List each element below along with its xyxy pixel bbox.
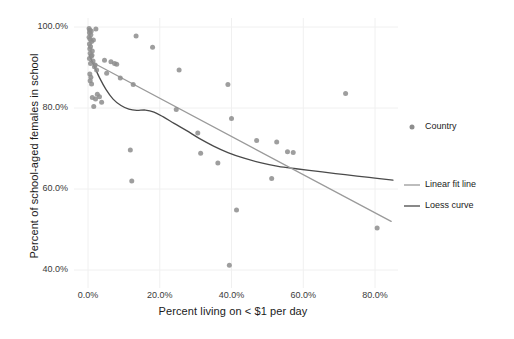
x-tick-label: 40.0% <box>209 290 255 300</box>
y-tick-label: 80.0% <box>22 102 68 112</box>
plot-area <box>0 0 514 339</box>
x-axis-title: Percent living on < $1 per day <box>88 305 378 317</box>
legend-item-label: Linear fit line <box>425 179 476 189</box>
legend-marks <box>404 125 420 207</box>
x-tick-label: 0.0% <box>65 290 111 300</box>
y-tick-label: 100.0% <box>22 21 68 31</box>
loess-curve <box>89 55 393 180</box>
y-tick-label: 60.0% <box>22 183 68 193</box>
legend-point-marker <box>410 125 415 130</box>
y-tick-label: 40.0% <box>22 264 68 274</box>
x-tick-label: 80.0% <box>352 290 398 300</box>
legend-item-label: Country <box>425 121 457 131</box>
x-tick-label: 20.0% <box>137 290 183 300</box>
scatter-chart: Percent of school-aged females in school… <box>0 0 514 339</box>
gridlines <box>74 18 398 288</box>
x-tick-label: 60.0% <box>280 290 326 300</box>
y-axis-title: Percent of school-aged females in school <box>28 26 40 286</box>
legend-item-label: Loess curve <box>425 200 474 210</box>
data-points <box>87 26 380 268</box>
